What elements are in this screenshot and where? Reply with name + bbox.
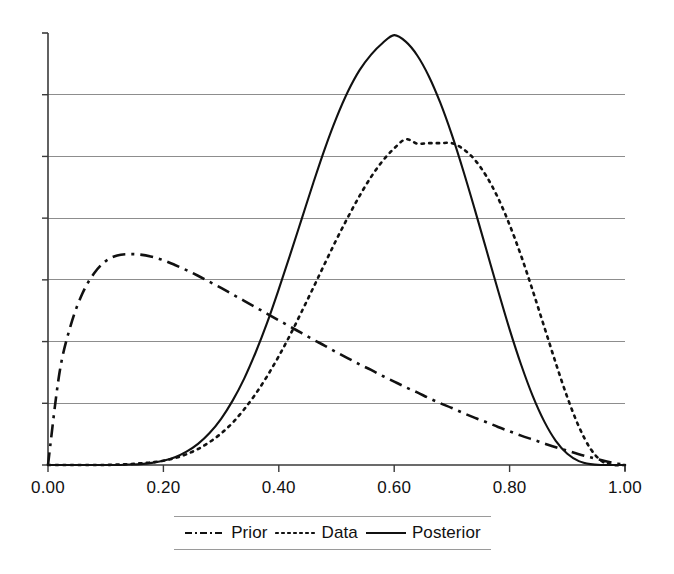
- series-line-prior: [48, 254, 625, 465]
- legend-entry-data[interactable]: Data: [275, 523, 358, 543]
- x-tick-marks: [48, 465, 625, 472]
- legend-label: Data: [322, 523, 358, 543]
- legend-entry-posterior[interactable]: Posterior: [365, 523, 481, 543]
- x-tick-label: 0.20: [128, 478, 198, 498]
- legend-swatch-dotted-icon: [275, 527, 317, 539]
- series-line-posterior: [48, 35, 625, 465]
- x-tick-label: 0.80: [475, 478, 545, 498]
- y-tick-marks: [42, 95, 48, 465]
- legend-swatch-solid-icon: [365, 527, 407, 539]
- chart-legend: PriorDataPosterior: [174, 516, 491, 550]
- legend-entry-prior[interactable]: Prior: [184, 523, 267, 543]
- x-tick-label: 0.00: [13, 478, 83, 498]
- plot-area: [0, 0, 674, 574]
- chart-figure: 0.000.200.400.600.801.00 PriorDataPoster…: [0, 0, 674, 574]
- legend-label: Prior: [231, 523, 267, 543]
- legend-swatch-dash-dot-icon: [184, 527, 226, 539]
- legend-label: Posterior: [412, 523, 481, 543]
- x-tick-label: 1.00: [590, 478, 660, 498]
- gridlines: [48, 95, 625, 404]
- x-tick-label: 0.60: [359, 478, 429, 498]
- series-line-data: [48, 139, 625, 465]
- x-tick-label: 0.40: [244, 478, 314, 498]
- series-group: [48, 35, 625, 465]
